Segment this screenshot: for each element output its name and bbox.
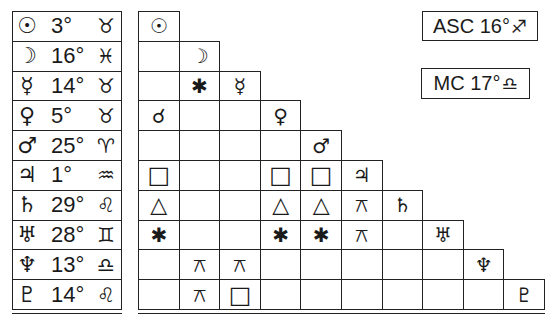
- trine-icon: △: [150, 194, 167, 216]
- planet-degree: 1°: [51, 161, 72, 190]
- aspect-cell: [341, 249, 383, 280]
- square-icon: □: [310, 163, 333, 187]
- aspect-cell: □: [138, 160, 180, 191]
- sun-diagonal-cell: ☉: [138, 11, 180, 42]
- moon-icon: ☽: [190, 46, 208, 66]
- square-icon: □: [229, 283, 252, 307]
- mercury-icon: ☿: [16, 72, 38, 101]
- sextile-icon: ✱: [313, 225, 330, 245]
- quincunx-icon: ⚻: [355, 195, 368, 215]
- aspect-cell: [138, 130, 180, 161]
- mercury-diagonal-cell: ☿: [219, 71, 261, 102]
- aspect-cell: △: [260, 190, 302, 221]
- aspect-cell: [463, 279, 505, 310]
- pluto-icon: ♇: [515, 285, 533, 305]
- quincunx-icon: ⚻: [355, 225, 368, 245]
- aspect-cell: [138, 41, 180, 72]
- aspect-cell: □: [300, 160, 342, 191]
- asc-degree: 16°: [480, 15, 510, 38]
- venus-diagonal-cell: ♀: [260, 100, 302, 131]
- aspect-cell: ☌: [138, 100, 180, 131]
- aspect-cell: [382, 249, 424, 280]
- sextile-icon: ✱: [191, 76, 208, 96]
- aspect-cell: [260, 130, 302, 161]
- aspect-cell: [179, 190, 221, 221]
- aspect-cell: [179, 160, 221, 191]
- uranus-icon: ♅: [434, 225, 452, 245]
- trine-icon: △: [313, 194, 330, 216]
- moon-diagonal-cell: ☽: [179, 41, 221, 72]
- planet-row: ♂25°♈: [13, 131, 121, 161]
- saturn-diagonal-cell: ♄: [382, 190, 424, 221]
- quincunx-icon: ⚻: [193, 255, 206, 275]
- libra-icon: ♎: [501, 73, 517, 94]
- conjunction-icon: ☌: [152, 106, 165, 126]
- aspect-cell: [219, 100, 261, 131]
- aries-icon: ♈: [95, 131, 117, 160]
- moon-icon: ☽: [16, 42, 38, 71]
- aspect-cell: [138, 279, 180, 310]
- planet-degree: 3°: [51, 12, 72, 41]
- mars-diagonal-cell: ♂: [300, 130, 342, 161]
- quincunx-icon: ⚻: [193, 285, 206, 305]
- planet-row: ☽16°♓: [13, 42, 121, 72]
- jupiter-icon: ♃: [16, 161, 38, 190]
- aspect-cell: □: [219, 279, 261, 310]
- planet-row: ♄29°♌: [13, 191, 121, 221]
- aspect-cell: ⚻: [219, 249, 261, 280]
- jupiter-icon: ♃: [353, 165, 371, 185]
- planet-positions-table: ☉3°♉☽16°♓☿14°♉♀5°♉♂25°♈♃1°♒♄29°♌♅28°♊♆13…: [12, 11, 122, 310]
- aspect-cell: △: [300, 190, 342, 221]
- aspect-cell: [422, 249, 464, 280]
- planet-degree: 5°: [51, 101, 72, 130]
- aspect-cell: [382, 279, 424, 310]
- aspect-cell: ✱: [179, 71, 221, 102]
- aspect-cell: [179, 100, 221, 131]
- neptune-diagonal-cell: ♆: [463, 249, 505, 280]
- aspect-cell: [138, 71, 180, 102]
- venus-icon: ♀: [273, 106, 288, 126]
- square-icon: □: [147, 163, 170, 187]
- mars-icon: ♂: [16, 131, 38, 160]
- aspect-cell: ⚻: [179, 249, 221, 280]
- asc-label: ASC: [433, 15, 474, 38]
- neptune-icon: ♆: [16, 250, 38, 279]
- aspect-cell: [219, 190, 261, 221]
- libra-icon: ♎: [95, 250, 117, 279]
- square-icon: □: [269, 163, 292, 187]
- planet-row: ☉3°♉: [13, 12, 121, 42]
- aspect-cell: △: [138, 190, 180, 221]
- aspect-cell: ✱: [138, 220, 180, 251]
- uranus-icon: ♅: [16, 221, 38, 250]
- sextile-icon: ✱: [150, 225, 167, 245]
- gemini-icon: ♊: [95, 221, 117, 250]
- pisces-icon: ♓: [95, 42, 117, 71]
- sagittarius-icon: ♐: [511, 16, 527, 37]
- quincunx-icon: ⚻: [233, 255, 246, 275]
- aspect-cell: [382, 220, 424, 251]
- aspect-cell: ✱: [260, 220, 302, 251]
- aspect-cell: ⚻: [179, 279, 221, 310]
- saturn-icon: ♄: [393, 195, 411, 215]
- aspect-cell: [219, 220, 261, 251]
- aspect-cell: ⚻: [341, 220, 383, 251]
- aspect-cell: [260, 249, 302, 280]
- planet-row: ♃1°♒: [13, 161, 121, 191]
- taurus-icon: ♉: [95, 72, 117, 101]
- saturn-icon: ♄: [16, 191, 38, 220]
- aspect-cell: [300, 249, 342, 280]
- aspect-cell: [219, 160, 261, 191]
- mercury-icon: ☿: [234, 76, 246, 96]
- mc-label: MC: [433, 72, 464, 95]
- aspect-cell: ⚻: [341, 190, 383, 221]
- uranus-diagonal-cell: ♅: [422, 220, 464, 251]
- planet-degree: 25°: [51, 131, 84, 160]
- planet-degree: 16°: [51, 42, 84, 71]
- planet-degree: 14°: [51, 72, 84, 101]
- pluto-icon: ♇: [16, 280, 38, 309]
- pluto-diagonal-cell: ♇: [503, 279, 545, 310]
- leo-icon: ♌: [95, 280, 117, 309]
- aspect-cell: [300, 279, 342, 310]
- grid-bottom-rule: [138, 313, 545, 314]
- planet-degree: 14°: [51, 280, 84, 309]
